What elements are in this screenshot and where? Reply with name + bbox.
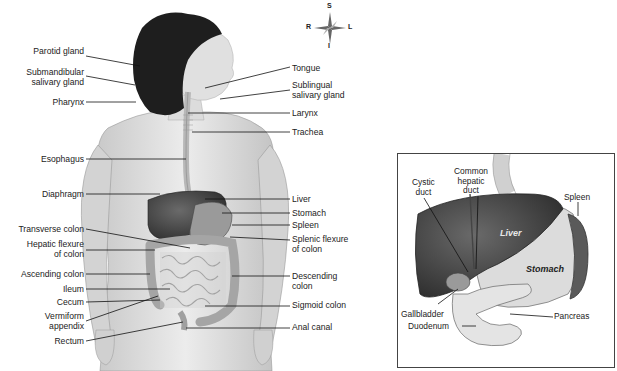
label-hepatic-flexure-line2: of colon bbox=[54, 249, 84, 259]
label-liver: Liver bbox=[292, 194, 311, 204]
label-cecum: Cecum bbox=[57, 297, 84, 307]
label-vermiform-appendix-line2: appendix bbox=[49, 321, 84, 331]
label-sublingual-gland-line2: salivary gland bbox=[292, 90, 345, 100]
compass-superior: S bbox=[327, 2, 332, 9]
inset-label-pancreas: Pancreas bbox=[554, 312, 589, 322]
cystic-duct-line2: duct bbox=[412, 188, 435, 198]
inset-label-spleen: Spleen bbox=[564, 193, 590, 203]
label-rectum: Rectum bbox=[54, 336, 84, 346]
label-descending-colon-line2: colon bbox=[292, 281, 313, 291]
label-ileum: Ileum bbox=[63, 284, 84, 294]
inset-label-cystic-duct: Cystic duct bbox=[412, 178, 435, 197]
label-diaphragm: Diaphragm bbox=[42, 189, 84, 199]
label-sigmoid-colon: Sigmoid colon bbox=[292, 300, 346, 310]
digestive-system-diagram: S I R L Parotid gland Submandibular sali… bbox=[0, 0, 617, 371]
label-sublingual-gland-line1: Sublingual bbox=[292, 80, 332, 90]
label-vermiform-appendix-line1: Vermiform bbox=[45, 311, 84, 321]
inset-label-liver: Liver bbox=[500, 228, 522, 238]
label-pharynx: Pharynx bbox=[52, 97, 84, 107]
label-esophagus: Esophagus bbox=[41, 154, 84, 164]
orientation-compass: S I R L bbox=[305, 6, 355, 50]
label-transverse-colon: Transverse colon bbox=[18, 224, 84, 234]
compass-right: R bbox=[306, 23, 311, 30]
inset-label-gallbladder: Gallbladder bbox=[401, 310, 444, 320]
inset-upper-abdominal-organs: Cystic duct Common hepatic duct Spleen L… bbox=[397, 153, 615, 368]
label-ascending-colon: Ascending colon bbox=[21, 269, 84, 279]
compass-inferior: I bbox=[328, 42, 330, 49]
inset-label-common-hepatic-duct: Common hepatic duct bbox=[454, 167, 488, 196]
label-spleen: Spleen bbox=[292, 220, 319, 230]
label-tongue: Tongue bbox=[292, 63, 320, 73]
label-hepatic-flexure-line1: Hepatic flexure bbox=[27, 239, 84, 249]
label-parotid-gland: Parotid gland bbox=[33, 46, 84, 56]
label-splenic-flexure-line1: Splenic flexure bbox=[292, 234, 348, 244]
label-anal-canal: Anal canal bbox=[292, 322, 332, 332]
inset-label-stomach: Stomach bbox=[526, 264, 564, 274]
label-stomach: Stomach bbox=[292, 208, 326, 218]
label-descending-colon-line1: Descending bbox=[292, 271, 337, 281]
compass-left: L bbox=[348, 23, 352, 30]
label-submandibular-gland-line2: salivary gland bbox=[31, 77, 84, 87]
common-hepatic-duct-line3: duct bbox=[454, 186, 488, 196]
label-submandibular-gland-line1: Submandibular bbox=[26, 67, 84, 77]
inset-label-duodenum: Duodenum bbox=[408, 322, 449, 332]
label-splenic-flexure-line2: of colon bbox=[292, 244, 322, 254]
label-larynx: Larynx bbox=[292, 108, 318, 118]
label-trachea: Trachea bbox=[292, 127, 323, 137]
